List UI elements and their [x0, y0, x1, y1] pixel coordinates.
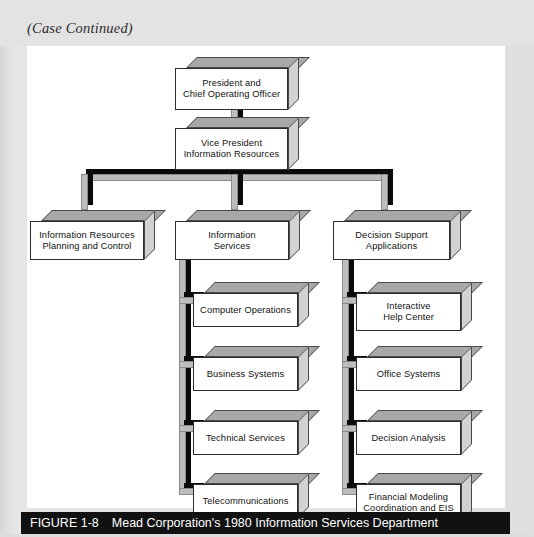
box-front-face: Technical Services [193, 421, 298, 455]
box-side-face [288, 57, 299, 110]
org-node-label: Vice President Information Resources [184, 138, 280, 160]
org-node-label: Decision Analysis [371, 433, 445, 444]
chart-canvas: President and Chief Operating Officer Vi… [27, 46, 505, 508]
connector-face [342, 249, 349, 492]
box-side-face [289, 210, 300, 260]
org-node-computer-operations[interactable]: Computer Operations [193, 282, 298, 316]
org-node-label: Financial Modeling Coordination and EIS [363, 492, 453, 514]
connector-bus-to-irpc [81, 174, 88, 210]
box-front-face: Computer Operations [193, 293, 298, 327]
org-node-decision-analysis[interactable]: Decision Analysis [356, 410, 461, 444]
connector-face [179, 249, 186, 492]
org-node-label: Computer Operations [200, 305, 291, 316]
org-node-label: President and Chief Operating Officer [183, 78, 280, 100]
figure-title: Mead Corporation's 1980 Information Serv… [99, 516, 438, 530]
org-node-president[interactable]: President and Chief Operating Officer [175, 57, 288, 99]
org-node-financial-modeling[interactable]: Financial Modeling Coordination and EIS [356, 473, 461, 511]
org-node-decision-support-applications[interactable]: Decision Support Applications [333, 210, 450, 249]
box-front-face: Interactive Help Center [356, 293, 461, 331]
case-continued-note: (Case Continued) [27, 20, 133, 37]
connector-shadow [238, 169, 243, 205]
org-node-information-services[interactable]: Information Services [175, 210, 289, 249]
org-node-label: Decision Support Applications [355, 230, 427, 252]
connector-shadow [88, 169, 93, 205]
org-node-business-systems[interactable]: Business Systems [193, 346, 298, 380]
box-side-face [288, 117, 299, 170]
org-node-label: Business Systems [207, 369, 285, 380]
figure-page: (Case Continued) [0, 0, 534, 537]
box-front-face: Decision Analysis [356, 421, 461, 455]
org-node-label: Technical Services [206, 433, 285, 444]
box-front-face: Office Systems [356, 357, 461, 391]
org-node-label: Information Resources Planning and Contr… [39, 230, 135, 252]
org-node-telecommunications[interactable]: Telecommunications [193, 473, 298, 507]
org-node-interactive-help-center[interactable]: Interactive Help Center [356, 282, 461, 320]
box-front-face: Information Resources Planning and Contr… [30, 221, 144, 260]
box-front-face: Decision Support Applications [333, 221, 450, 260]
connector-shadow [388, 169, 393, 205]
connector-information-services-trunk [179, 249, 186, 492]
box-side-face [144, 210, 155, 260]
connector-bus-to-decision-support [381, 174, 388, 210]
figure-caption-bar: FIGURE 1-8 Mead Corporation's 1980 Infor… [21, 512, 510, 534]
org-node-information-resources-planning-and-control[interactable]: Information Resources Planning and Contr… [30, 210, 144, 249]
connector-bus-to-information-services [231, 174, 238, 210]
connector-decision-support-trunk [342, 249, 349, 492]
org-node-label: Interactive Help Center [383, 301, 434, 323]
org-node-technical-services[interactable]: Technical Services [193, 410, 298, 444]
box-front-face: Vice President Information Resources [175, 128, 288, 170]
connector-face [381, 174, 388, 210]
box-side-face [450, 210, 461, 260]
org-node-vice-president[interactable]: Vice President Information Resources [175, 117, 288, 159]
box-front-face: Information Services [175, 221, 289, 260]
box-front-face: President and Chief Operating Officer [175, 68, 288, 110]
figure-number: FIGURE 1-8 [21, 516, 99, 530]
box-front-face: Business Systems [193, 357, 298, 391]
org-node-label: Telecommunications [202, 496, 288, 507]
connector-face [81, 174, 88, 210]
org-node-office-systems[interactable]: Office Systems [356, 346, 461, 380]
org-node-label: Office Systems [377, 369, 441, 380]
org-node-label: Information Services [208, 230, 256, 252]
connector-face [231, 174, 238, 210]
